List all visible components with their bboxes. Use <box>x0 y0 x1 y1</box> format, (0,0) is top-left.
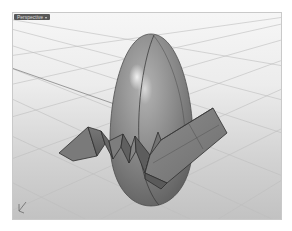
cad-application: Perspective <box>0 0 292 231</box>
viewport-scene[interactable] <box>13 13 282 220</box>
viewport-title: Perspective <box>17 14 43 20</box>
faded-menu-bar <box>14 1 144 9</box>
viewport-title-tab[interactable]: Perspective <box>14 14 50 20</box>
world-axes-icon <box>19 202 26 213</box>
perspective-viewport[interactable]: Perspective <box>12 12 282 220</box>
chevron-down-icon[interactable] <box>45 17 47 19</box>
